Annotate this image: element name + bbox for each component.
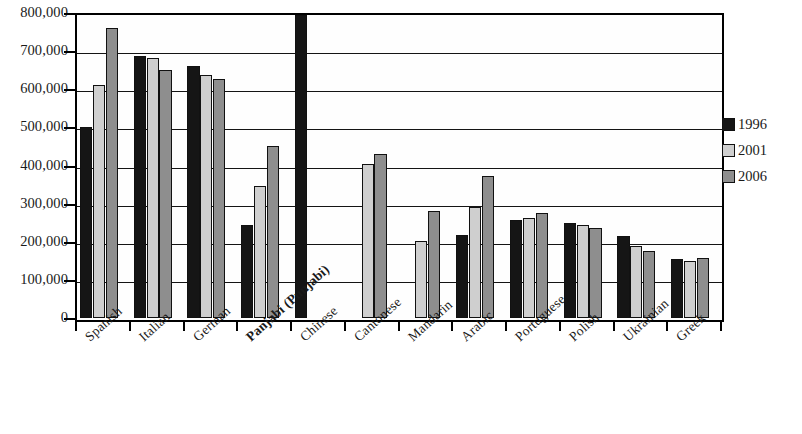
y-axis-tick-mark (64, 280, 75, 282)
x-axis-tick-label: Portuguese (512, 292, 569, 345)
dark-gray-swatch (722, 170, 735, 183)
legend-item: 1996 (722, 113, 800, 135)
legend-item: 2001 (722, 139, 800, 161)
x-axis-tick-mark (344, 320, 346, 331)
legend-label: 2001 (738, 143, 767, 158)
x-axis-tick-mark (183, 320, 185, 331)
y-axis-tick-mark (64, 318, 75, 320)
x-axis-tick-mark (559, 320, 561, 331)
x-axis-tick-label: Ukrainian (620, 296, 672, 345)
y-axis-tick-mark (64, 13, 75, 15)
x-axis-tick-mark (505, 320, 507, 331)
x-axis-tick-mark (75, 320, 77, 331)
black-swatch (722, 118, 735, 131)
y-axis-tick-mark (64, 242, 75, 244)
x-axis-tick-label: Spanish (82, 303, 126, 344)
y-axis-tick-mark (64, 204, 75, 206)
x-axis-tick-mark (129, 320, 131, 331)
x-axis-tick-mark (613, 320, 615, 331)
x-axis-tick-label: German (190, 303, 234, 345)
y-axis-tick-mark (64, 127, 75, 129)
x-axis-tick-label: Mandarin (405, 297, 456, 345)
x-axis-tick-mark (236, 320, 238, 331)
x-axis-tick-mark (290, 320, 292, 331)
x-axis-tick-label: Polish (566, 310, 603, 345)
x-axis: SpanishItalianGermanPanjabi (Punjabi)Chi… (0, 0, 802, 434)
legend-label: 1996 (738, 117, 767, 132)
light-gray-swatch (722, 144, 735, 157)
x-axis-tick-label: Greek (673, 310, 709, 345)
y-axis-tick-mark (64, 89, 75, 91)
x-axis-tick-label: Italian (136, 309, 173, 345)
x-axis-tick-mark (720, 320, 722, 331)
y-axis-tick-mark (64, 166, 75, 168)
x-axis-tick-mark (451, 320, 453, 331)
chart-legend: 199620012006 (722, 113, 800, 191)
x-axis-tick-mark (666, 320, 668, 331)
legend-item: 2006 (722, 165, 800, 187)
y-axis-tick-mark (64, 51, 75, 53)
x-axis-tick-label: Arabic (458, 308, 497, 345)
legend-label: 2006 (738, 169, 767, 184)
x-axis-tick-label: Chinese (297, 303, 341, 345)
bar-chart: 800,000700,000600,000500,000400,000300,0… (0, 0, 802, 434)
x-axis-tick-mark (398, 320, 400, 331)
